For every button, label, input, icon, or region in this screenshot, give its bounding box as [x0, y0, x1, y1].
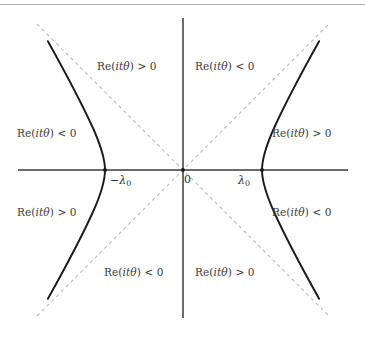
axis-label-lambda-zero: λ0	[238, 175, 250, 188]
origin-marker	[181, 168, 185, 172]
region-label-lower-right: Re(itθ) < 0	[272, 207, 332, 218]
vertex-marker-minus-lambda-zero	[103, 168, 107, 172]
region-relation-bottom-left: < 0	[144, 266, 163, 278]
region-relation-middle-left: < 0	[57, 127, 76, 139]
region-label-middle-right: Re(itθ) > 0	[272, 128, 332, 139]
region-relation-bottom-right: > 0	[235, 266, 254, 278]
vertex-marker-lambda-zero	[260, 168, 264, 172]
region-label-bottom-right: Re(itθ) > 0	[195, 267, 255, 278]
region-label-top-right: Re(itθ) < 0	[195, 61, 255, 72]
origin-digit: 0	[184, 173, 191, 186]
region-label-top-left: Re(itθ) > 0	[97, 61, 157, 72]
lambda-subscript-right: 0	[245, 179, 250, 188]
region-relation-middle-right: > 0	[312, 127, 331, 139]
hyperbola-diagram-svg	[0, 0, 365, 337]
region-label-middle-left: Re(itθ) < 0	[17, 128, 77, 139]
region-label-bottom-left: Re(itθ) < 0	[104, 267, 164, 278]
region-relation-top-left: > 0	[137, 60, 156, 72]
figure-canvas: Re(itθ) > 0 Re(itθ) < 0 Re(itθ) < 0 Re(i…	[0, 0, 365, 337]
region-relation-lower-left: > 0	[57, 206, 76, 218]
lambda-symbol-right: λ	[238, 174, 245, 187]
region-relation-top-right: < 0	[235, 60, 254, 72]
region-relation-lower-right: < 0	[312, 206, 331, 218]
region-label-lower-left: Re(itθ) > 0	[17, 207, 77, 218]
axis-label-minus-lambda-zero: −λ0	[110, 175, 131, 188]
axis-label-origin: 0	[184, 174, 191, 185]
minus-sign: −	[110, 174, 119, 187]
lambda-subscript-left: 0	[126, 179, 131, 188]
